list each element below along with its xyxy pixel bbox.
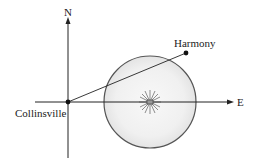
harmony-label: Harmony — [174, 37, 216, 49]
north-axis — [66, 17, 71, 158]
map-diagram: N E Collinsville Harmony — [0, 0, 254, 167]
collinsville-point — [66, 100, 71, 105]
east-label: E — [237, 96, 244, 108]
north-arrow-icon — [66, 17, 71, 24]
north-label: N — [64, 6, 72, 18]
harmony-point — [184, 51, 189, 56]
collinsville-label: Collinsville — [15, 107, 66, 119]
east-arrow-icon — [227, 100, 234, 105]
